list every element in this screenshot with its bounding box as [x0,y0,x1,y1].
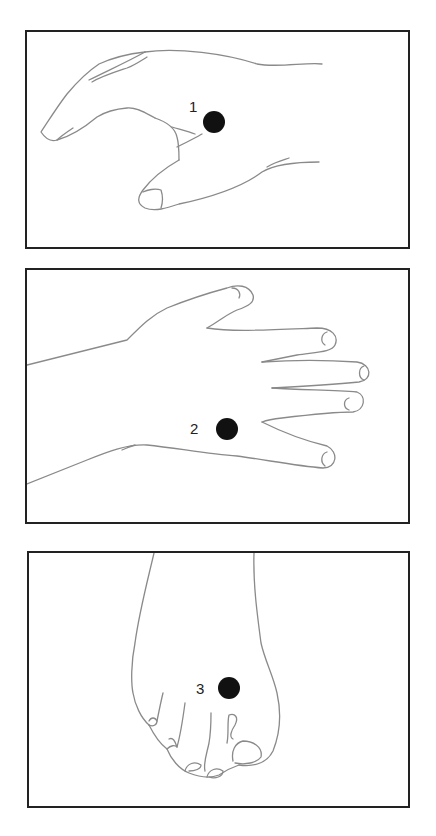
acupoint-marker-3 [218,677,240,699]
panel-hand-side: 1 [25,30,410,249]
point-label-3: 3 [196,681,204,696]
hand-side-illustration [27,32,408,247]
foot-dorsal-illustration [29,553,408,806]
acupoint-marker-2 [216,418,238,440]
panel-foot-dorsal: 3 [27,551,410,808]
panel-hand-dorsal: 2 [25,268,410,524]
hand-dorsal-illustration [27,270,408,522]
point-label-1: 1 [189,99,197,114]
point-label-2: 2 [190,421,198,436]
acupoint-marker-1 [203,111,225,133]
